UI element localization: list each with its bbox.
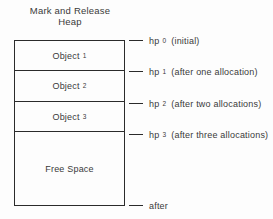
heap-pointer-hp1: hp1 (after one allocation) [129, 65, 258, 78]
pointer-tick-line [129, 205, 143, 207]
pointer-tick-line [129, 71, 143, 73]
pointer-label: hp [149, 99, 159, 109]
pointer-label: hp [149, 67, 159, 77]
heap-section-object-3: Object3 [15, 102, 124, 132]
pointer-annotation: (initial) [171, 36, 199, 46]
diagram-title-line2: Heap [14, 16, 126, 27]
heap-pointer-hp2: hp2 (after two allocations) [129, 97, 261, 110]
heap-box: Object1 Object2 Object3 Free Space [14, 40, 125, 206]
pointer-annotation: (after two allocations) [171, 99, 261, 109]
diagram-title: Mark and Release Heap [14, 5, 126, 27]
heap-section-object-1: Object1 [15, 41, 124, 71]
heap-pointer-hp3: hp3 (after three allocations) [129, 128, 268, 141]
heap-pointer-after: after [129, 199, 168, 212]
heap-pointer-hp0: hp0 (initial) [129, 34, 200, 47]
pointer-label: after [149, 201, 168, 211]
pointer-tick-line [129, 40, 143, 42]
pointer-label: hp [149, 130, 159, 140]
heap-section-label: Free Space [45, 164, 94, 174]
heap-section-free-space: Free Space [15, 132, 124, 205]
heap-section-object-2: Object2 [15, 71, 124, 102]
pointer-annotation: (after three allocations) [171, 130, 268, 140]
heap-section-label: Object [52, 51, 79, 61]
pointer-tick-line [129, 103, 143, 105]
mark-and-release-heap-diagram: Mark and Release Heap Object1 Object2 Ob… [0, 0, 273, 219]
heap-section-label: Object [52, 81, 79, 91]
pointer-tick-line [129, 134, 143, 136]
heap-section-label: Object [52, 112, 79, 122]
diagram-title-line1: Mark and Release [14, 5, 126, 16]
pointer-annotation: (after one allocation) [171, 67, 257, 77]
pointer-label: hp [149, 36, 159, 46]
